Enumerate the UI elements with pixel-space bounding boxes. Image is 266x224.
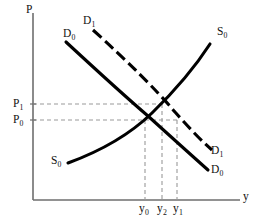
curve-label-d0-top: D0 (63, 28, 76, 42)
x-tick-label-y2: y2 (157, 203, 167, 217)
curve-label-s0-top: S0 (217, 26, 228, 40)
y-tick-label-p1: P1 (13, 98, 24, 112)
supply-demand-figure: P y D1 D0 S0 D1 D0 S0 P1 P0 y0 y2 y1 (0, 0, 266, 224)
curve-label-d0-right: D0 (211, 164, 224, 178)
y-tick-label-p0: P0 (13, 114, 24, 128)
x-tick-label-y0: y0 (139, 203, 149, 217)
curve-demand-d1 (93, 30, 212, 150)
curve-label-s0-bottom: S0 (51, 155, 62, 169)
curve-label-d1-right: D1 (211, 145, 224, 159)
curve-label-d1-top: D1 (83, 15, 96, 29)
y-axis-title: P (26, 4, 33, 16)
curve-demand-d0 (66, 42, 208, 170)
x-axis-title: y (243, 191, 249, 203)
x-tick-label-y1: y1 (173, 203, 183, 217)
